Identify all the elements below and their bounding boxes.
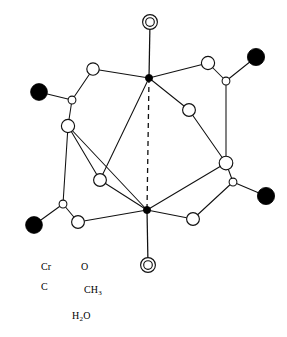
atom-o-ul-bot: [61, 119, 74, 132]
atom-cr-top: [145, 74, 152, 81]
bond-h2o-top-cr-top: [149, 22, 150, 78]
bond-cr-top-o-inner-l: [100, 78, 149, 180]
molecular-structure-figure: Cr O C CH3 H2O: [0, 0, 287, 337]
atom-ch3-ll: [26, 217, 43, 234]
atom-c-ll: [59, 200, 67, 208]
atom-o-inner-l: [94, 174, 107, 187]
bond-cr-top-o-ul-top: [93, 69, 149, 78]
bond-cr-bottom-o-ur-bot: [147, 163, 226, 210]
bond-layer: [34, 22, 266, 265]
bond-h2o-bottom-cr-bottom: [147, 210, 148, 265]
atom-o-ur-top: [201, 56, 214, 69]
atom-cr-bottom: [143, 206, 150, 213]
bond-cr-bottom-o-lr-top: [147, 210, 193, 219]
bond-o-lr-top-c-lr: [193, 182, 233, 219]
atom-o-inner-r: [183, 104, 196, 117]
bond-cr-bottom-o-ul-bot: [68, 126, 147, 210]
atom-ch3-lr: [257, 187, 274, 204]
bond-c-ll-o-ul-bot: [63, 126, 68, 204]
bond-cr-top-o-ur-top: [149, 63, 208, 78]
atom-h2o-top: [143, 15, 158, 30]
atom-h2o-bottom: [141, 258, 156, 273]
metal-metal-bond: [147, 78, 149, 210]
atom-o-lr-top: [187, 213, 200, 226]
bond-cr-top-o-inner-r: [149, 78, 189, 110]
atom-o-ur-bot: [219, 156, 233, 170]
atom-ch3-ul: [31, 84, 48, 101]
structure-canvas: [0, 0, 287, 337]
bond-o-inner-l-o-ul-bot: [68, 126, 100, 180]
bond-o-inner-r-o-ur-bot: [189, 110, 226, 163]
atom-c-ur: [222, 77, 230, 85]
atom-ch3-ur: [247, 48, 264, 65]
atom-o-ll-top: [72, 216, 85, 229]
atom-c-ul: [68, 96, 76, 104]
atom-o-ul-top: [87, 63, 99, 75]
atom-layer: [26, 15, 275, 273]
atom-c-lr: [229, 178, 237, 186]
bond-cr-bottom-o-ll-top: [78, 210, 147, 222]
